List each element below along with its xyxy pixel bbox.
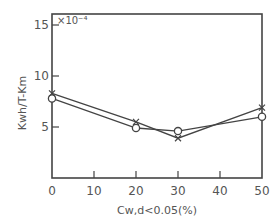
x-tick-label: 40: [212, 184, 227, 198]
circle-marker: [174, 127, 181, 134]
plot-border: [52, 14, 262, 178]
series-line: [52, 98, 262, 131]
line-chart: 51015 01020304050 ×10⁻⁴ Kwh/T-Km Cw,d<0.…: [0, 0, 276, 224]
cross-marker: [175, 135, 181, 141]
x-axis-ticks: 01020304050: [48, 171, 269, 198]
x-tick-label: 50: [254, 184, 269, 198]
y-scale-note: ×10⁻⁴: [57, 15, 87, 26]
x-tick-label: 0: [48, 184, 56, 198]
circle-marker: [132, 124, 139, 131]
y-axis-label: Kwh/T-Km: [16, 76, 29, 131]
x-tick-label: 30: [170, 184, 185, 198]
x-tick-label: 10: [86, 184, 101, 198]
series-circle: [48, 95, 265, 135]
x-axis-label: Cw,d<0.05(%): [117, 204, 197, 217]
circle-marker: [258, 113, 265, 120]
series-line: [52, 93, 262, 138]
series-cross: [49, 90, 265, 141]
y-tick-label: 15: [34, 18, 49, 32]
y-axis-ticks: 51015: [34, 18, 59, 134]
x-tick-label: 20: [128, 184, 143, 198]
data-series: [48, 90, 265, 141]
y-tick-label: 5: [41, 120, 49, 134]
plot-frame: [52, 14, 262, 178]
y-tick-label: 10: [34, 69, 49, 83]
